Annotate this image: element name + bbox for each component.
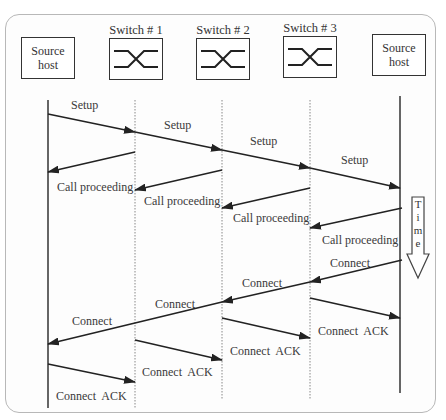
label-connect-ack-4: Connect ACK	[56, 389, 127, 404]
label-connect-1: Connect	[330, 256, 370, 271]
label-call-proceeding-4: Call proceeding	[322, 233, 398, 248]
arrow-connect-ack-1	[310, 298, 400, 318]
arrow-connect-ack-3	[135, 340, 222, 360]
label-connect-ack-2: Connect ACK	[230, 344, 301, 359]
time-label: T i m e	[410, 198, 426, 250]
label-connect-ack-3: Connect ACK	[142, 365, 213, 380]
arrow-setup-4	[310, 168, 400, 188]
sequence-diagram	[0, 0, 446, 420]
arrow-call-proceeding-4	[310, 208, 402, 228]
label-setup-4: Setup	[341, 153, 368, 168]
arrow-setup-2	[135, 132, 222, 150]
arrow-connect-ack-2	[222, 318, 310, 338]
label-connect-ack-1: Connect ACK	[318, 324, 389, 339]
arrow-setup-1	[48, 114, 135, 132]
arrow-setup-3	[222, 150, 310, 168]
label-connect-2: Connect	[242, 276, 282, 291]
arrow-call-proceeding-3	[222, 188, 310, 208]
label-call-proceeding-1: Call proceeding	[57, 180, 133, 195]
arrow-call-proceeding-1	[48, 152, 135, 172]
label-call-proceeding-3: Call proceeding	[233, 211, 309, 226]
label-connect-3: Connect	[155, 297, 195, 312]
time-letter-e: e	[410, 237, 426, 250]
arrow-call-proceeding-2	[135, 170, 222, 190]
label-setup-2: Setup	[164, 118, 191, 133]
arrow-connect-ack-4	[48, 364, 135, 382]
label-setup-1: Setup	[71, 98, 98, 113]
time-letter-i: i	[410, 211, 426, 224]
label-call-proceeding-2: Call proceeding	[144, 194, 220, 209]
time-letter-t: T	[410, 198, 426, 211]
time-letter-m: m	[410, 224, 426, 237]
label-setup-3: Setup	[250, 134, 277, 149]
label-connect-4: Connect	[72, 314, 112, 329]
